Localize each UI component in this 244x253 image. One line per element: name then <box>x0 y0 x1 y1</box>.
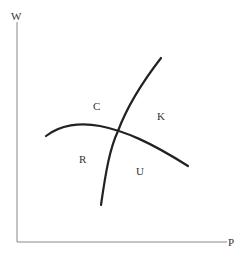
region-label-r: R <box>79 153 87 165</box>
y-axis-label: W <box>11 10 22 22</box>
x-axis-label: P <box>228 236 234 248</box>
region-label-k: K <box>157 110 165 122</box>
diagram-canvas: W P C K R U <box>0 0 244 253</box>
region-label-u: U <box>136 165 144 177</box>
region-label-c: C <box>93 100 100 112</box>
steep-upward-curve <box>101 58 161 205</box>
downward-sloping-curve <box>46 124 188 166</box>
